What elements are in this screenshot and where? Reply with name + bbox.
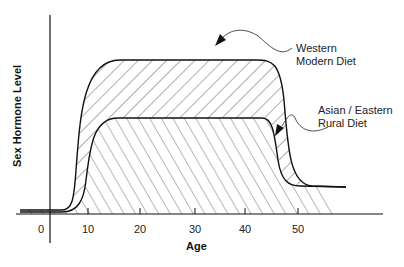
x-tick-label: 0 <box>29 223 53 235</box>
y-axis-title: Sex Hormone Level <box>11 65 23 167</box>
western-label-line1: Western <box>296 42 337 55</box>
western-label-line2: Modern Diet <box>296 55 356 68</box>
western-annotation-arrow <box>222 30 292 52</box>
asian-label-line1: Asian / Eastern <box>318 104 393 117</box>
x-tick-label: 40 <box>233 223 257 235</box>
x-tick-label: 30 <box>183 223 207 235</box>
x-tick-label: 20 <box>128 223 152 235</box>
x-axis-title: Age <box>186 240 207 252</box>
x-tick-label: 10 <box>76 223 100 235</box>
asian-label-line2: Rural Diet <box>318 117 367 130</box>
x-tick-label: 50 <box>286 223 310 235</box>
